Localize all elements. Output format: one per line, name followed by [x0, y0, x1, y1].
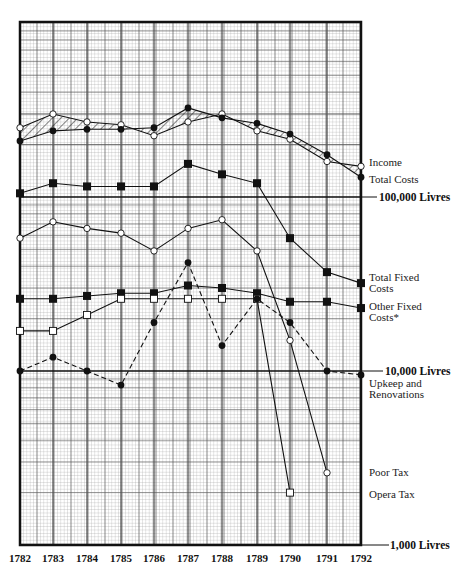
- legend-upkeep-2: Renovations: [369, 388, 424, 400]
- x-label-1791: 1791: [316, 552, 338, 564]
- x-label-1786: 1786: [143, 552, 166, 564]
- x-label-1785: 1785: [110, 552, 133, 564]
- legend-labels: Income Total Costs Total Fixed Costs Oth…: [369, 156, 424, 500]
- legend-opera-tax: Opera Tax: [369, 488, 415, 500]
- legend-total-costs: Total Costs: [369, 173, 419, 185]
- x-label-1784: 1784: [76, 552, 99, 564]
- legend-other-fixed-2: Costs*: [369, 311, 399, 323]
- x-label-1790: 1790: [279, 552, 302, 564]
- x-label-1788: 1788: [211, 552, 234, 564]
- legend-income: Income: [369, 156, 402, 168]
- y-label-1000: 1,000 Livres: [390, 539, 450, 551]
- x-label-1787: 1787: [177, 552, 200, 564]
- x-axis-labels: 1782178317841785178617871788178917901791…: [9, 552, 373, 564]
- x-label-1783: 1783: [42, 552, 65, 564]
- chart: 100,000 Livres 10,000 Livres 1,000 Livre…: [0, 0, 463, 577]
- x-label-1789: 1789: [246, 552, 269, 564]
- legend-poor-tax: Poor Tax: [369, 466, 409, 478]
- y-label-100000: 100,000 Livres: [379, 191, 451, 203]
- x-label-1782: 1782: [9, 552, 32, 564]
- x-label-1792: 1792: [350, 552, 373, 564]
- y-label-10000: 10,000 Livres: [385, 365, 451, 377]
- legend-total-fixed-2: Costs: [369, 282, 393, 294]
